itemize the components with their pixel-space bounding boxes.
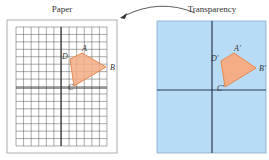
vertex-label-c: C [68, 83, 74, 92]
transparency-title: Transparency [188, 4, 237, 14]
vertex-label-a: A [81, 44, 87, 53]
vertex-label-a-prime: A′ [233, 44, 241, 53]
paper-title: Paper [52, 4, 73, 14]
arrow-head [120, 13, 127, 19]
vertex-label-d-prime: D′ [210, 54, 219, 63]
paper-transparency-diagram: ABCD A′B′C′D′ Paper Transparency [0, 0, 269, 160]
curved-arrow-icon [120, 6, 195, 19]
paper-panel: ABCD [7, 20, 117, 153]
arrow-curve [124, 6, 195, 16]
vertex-label-b: B [110, 63, 115, 72]
vertex-label-d: D [61, 52, 68, 61]
vertex-label-b-prime: B′ [259, 64, 266, 73]
vertex-label-c-prime: C′ [217, 84, 224, 93]
transparency-panel: A′B′C′D′ [157, 21, 266, 153]
